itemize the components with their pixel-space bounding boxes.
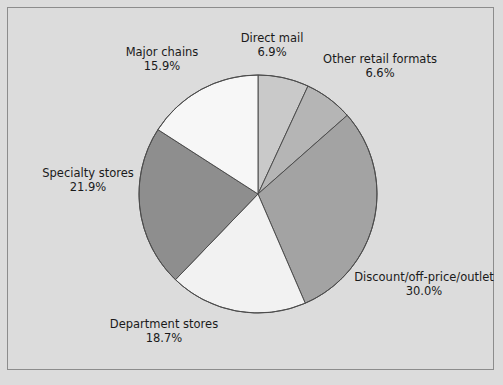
slice-label-major-chains-value: 15.9%	[106, 59, 218, 73]
slice-label-discount-off-price-outlet: Discount/off-price/outlet 30.0%	[348, 270, 500, 298]
slice-label-specialty-stores: Specialty stores 21.9%	[30, 166, 146, 194]
slice-label-direct-mail-value: 6.9%	[222, 45, 322, 59]
slice-label-specialty-stores-value: 21.9%	[30, 180, 146, 194]
pie-chart-figure: Direct mail 6.9% Other retail formats 6.…	[0, 0, 503, 385]
slice-label-direct-mail-name: Direct mail	[222, 31, 322, 45]
slice-label-major-chains: Major chains 15.9%	[106, 45, 218, 73]
slice-label-department-stores-name: Department stores	[90, 317, 238, 331]
slice-label-other-retail-formats: Other retail formats 6.6%	[316, 52, 444, 80]
slice-label-discount-off-price-outlet-name: Discount/off-price/outlet	[348, 270, 500, 284]
slice-label-other-retail-formats-value: 6.6%	[316, 66, 444, 80]
slice-label-major-chains-name: Major chains	[106, 45, 218, 59]
slice-label-department-stores-value: 18.7%	[90, 331, 238, 345]
slice-label-specialty-stores-name: Specialty stores	[30, 166, 146, 180]
slice-label-other-retail-formats-name: Other retail formats	[316, 52, 444, 66]
slice-label-department-stores: Department stores 18.7%	[90, 317, 238, 345]
slice-label-discount-off-price-outlet-value: 30.0%	[348, 284, 500, 298]
slice-label-direct-mail: Direct mail 6.9%	[222, 31, 322, 59]
pie-slices-group	[139, 75, 377, 313]
